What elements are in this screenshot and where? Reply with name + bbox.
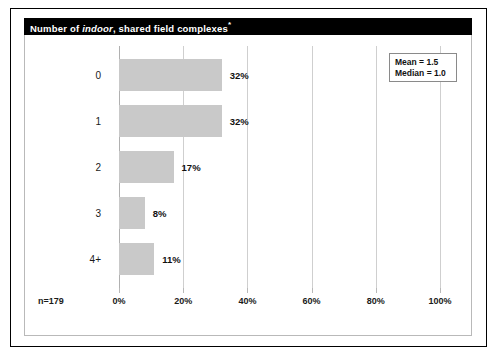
category-label-1: 1 (95, 116, 101, 127)
median-label: Median = 1.0 (395, 68, 456, 79)
statistics-box: Mean = 1.5 Median = 1.0 (389, 53, 457, 82)
plot-area: 0%20%40%60%80%100% 032%132%217%38%4+11% (119, 46, 440, 288)
category-label-4plus: 4+ (90, 254, 101, 265)
chart-title-footnote-marker: * (228, 20, 231, 29)
sample-size-label: n=179 (38, 296, 64, 306)
x-tick-label-100: 100% (428, 296, 451, 306)
chart-title-italic-word: indoor (82, 22, 113, 33)
x-tick-100 (440, 288, 441, 293)
bar-value-2: 17% (182, 162, 201, 173)
chart-title-bar: Number of indoor, shared field complexes… (24, 18, 472, 35)
chart-figure: Number of indoor, shared field complexes… (0, 0, 497, 356)
bar-row: 132% (119, 105, 440, 137)
category-label-0: 0 (95, 70, 101, 81)
mean-label: Mean = 1.5 (395, 57, 456, 68)
bar-1 (119, 105, 222, 137)
bar-value-3: 8% (153, 208, 167, 219)
bar-0 (119, 59, 222, 91)
bar-4plus (119, 243, 154, 275)
x-tick-80 (376, 288, 377, 293)
bar-row: 38% (119, 197, 440, 229)
gridline-100 (440, 46, 441, 288)
category-label-3: 3 (95, 208, 101, 219)
bar-2 (119, 151, 174, 183)
chart-title-prefix: Number of (30, 22, 82, 33)
bar-row: 4+11% (119, 243, 440, 275)
x-tick-label-0: 0% (112, 296, 125, 306)
bar-value-0: 32% (230, 70, 249, 81)
x-tick-label-60: 60% (303, 296, 321, 306)
x-tick-60 (312, 288, 313, 293)
bar-3 (119, 197, 145, 229)
x-tick-label-20: 20% (174, 296, 192, 306)
x-tick-0 (119, 288, 120, 293)
chart-title: Number of indoor, shared field complexes… (30, 20, 231, 33)
chart-title-suffix: , shared field complexes (113, 22, 228, 33)
bar-row: 217% (119, 151, 440, 183)
x-tick-label-40: 40% (238, 296, 256, 306)
category-label-2: 2 (95, 162, 101, 173)
x-tick-40 (247, 288, 248, 293)
bar-value-1: 32% (230, 116, 249, 127)
x-tick-20 (183, 288, 184, 293)
bar-value-4plus: 11% (162, 254, 181, 265)
x-tick-label-80: 80% (367, 296, 385, 306)
